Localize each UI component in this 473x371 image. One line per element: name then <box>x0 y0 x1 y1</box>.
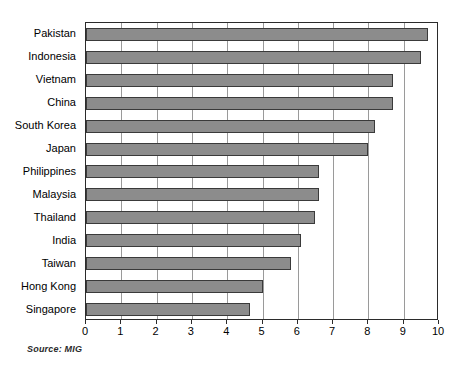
category-label-vietnam: Vietnam <box>36 73 76 85</box>
category-label-hong-kong: Hong Kong <box>21 280 76 292</box>
bar-taiwan <box>86 257 291 270</box>
category-label-malaysia: Malaysia <box>33 188 76 200</box>
bar-thailand <box>86 211 315 224</box>
category-label-india: India <box>52 234 76 246</box>
x-tick-mark-8 <box>367 320 368 324</box>
x-tick-mark-0 <box>85 320 86 324</box>
plot-area <box>85 22 438 320</box>
category-label-singapore: Singapore <box>26 303 76 315</box>
x-tick-label-0: 0 <box>82 325 88 337</box>
bar-row <box>86 161 437 184</box>
category-label-taiwan: Taiwan <box>42 257 76 269</box>
x-tick-mark-1 <box>120 320 121 324</box>
category-label-japan: Japan <box>46 142 76 154</box>
bar-row <box>86 69 437 92</box>
bar-row <box>86 298 437 321</box>
x-tick-mark-10 <box>438 320 439 324</box>
category-label-south-korea: South Korea <box>15 119 76 131</box>
bar-chart-figure: PakistanIndonesiaVietnamChinaSouth Korea… <box>0 0 473 371</box>
source-note: Source: MIG <box>27 344 82 354</box>
x-tick-label-5: 5 <box>258 325 264 337</box>
bar-japan <box>86 143 368 156</box>
x-tick-label-7: 7 <box>329 325 335 337</box>
bar-indonesia <box>86 51 421 64</box>
x-tick-label-1: 1 <box>117 325 123 337</box>
x-tick-label-6: 6 <box>294 325 300 337</box>
bar-rows <box>86 23 437 319</box>
bar-row <box>86 46 437 69</box>
bar-row <box>86 275 437 298</box>
bar-row <box>86 138 437 161</box>
bar-china <box>86 97 393 110</box>
x-tick-label-8: 8 <box>364 325 370 337</box>
x-tick-mark-3 <box>191 320 192 324</box>
x-tick-mark-5 <box>262 320 263 324</box>
bar-row <box>86 92 437 115</box>
x-tick-mark-7 <box>332 320 333 324</box>
x-tick-label-2: 2 <box>153 325 159 337</box>
x-tick-mark-4 <box>226 320 227 324</box>
x-tick-label-3: 3 <box>188 325 194 337</box>
category-label-philippines: Philippines <box>23 165 76 177</box>
bar-hong-kong <box>86 280 263 293</box>
bar-south-korea <box>86 120 375 133</box>
bar-philippines <box>86 165 319 178</box>
bar-row <box>86 229 437 252</box>
category-label-pakistan: Pakistan <box>34 27 76 39</box>
bar-pakistan <box>86 28 428 41</box>
x-tick-mark-9 <box>403 320 404 324</box>
category-axis-labels: PakistanIndonesiaVietnamChinaSouth Korea… <box>0 22 81 320</box>
bar-singapore <box>86 303 250 316</box>
x-tick-mark-6 <box>297 320 298 324</box>
x-tick-label-9: 9 <box>400 325 406 337</box>
x-tick-mark-2 <box>156 320 157 324</box>
bar-row <box>86 183 437 206</box>
x-tick-label-4: 4 <box>223 325 229 337</box>
bar-row <box>86 115 437 138</box>
bar-row <box>86 206 437 229</box>
category-label-indonesia: Indonesia <box>28 50 76 62</box>
category-label-thailand: Thailand <box>34 211 76 223</box>
bar-india <box>86 234 301 247</box>
bar-vietnam <box>86 74 393 87</box>
x-axis: 012345678910 <box>85 320 438 342</box>
bar-row <box>86 252 437 275</box>
category-label-china: China <box>47 96 76 108</box>
x-tick-label-10: 10 <box>432 325 444 337</box>
bar-row <box>86 23 437 46</box>
bar-malaysia <box>86 188 319 201</box>
